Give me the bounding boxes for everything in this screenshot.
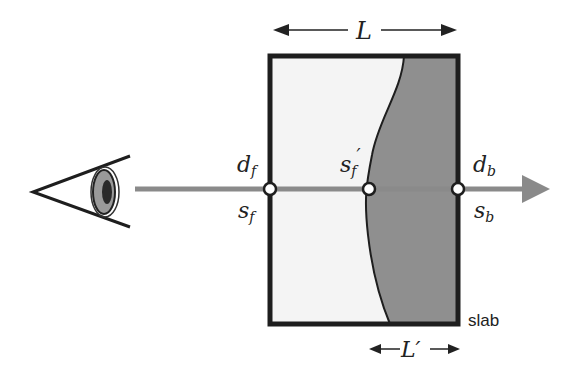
- label-L-prime: L′: [400, 337, 421, 362]
- point-front: [264, 183, 276, 195]
- arrow-right-icon: [522, 175, 550, 203]
- dimension-L: L: [273, 17, 457, 45]
- slab-diagram: L df sf sf′ db sb slab L′: [0, 0, 575, 376]
- dimension-L-prime: L′: [369, 337, 460, 362]
- label-db: db: [473, 152, 496, 179]
- label-sb: sb: [474, 198, 494, 225]
- label-df: df: [237, 152, 259, 179]
- label-slab: slab: [468, 311, 499, 330]
- label-sf: sf: [238, 198, 257, 225]
- point-back: [452, 183, 464, 195]
- label-L: L: [355, 17, 372, 45]
- point-sf-prime: [363, 183, 375, 195]
- eye-icon: [33, 156, 130, 227]
